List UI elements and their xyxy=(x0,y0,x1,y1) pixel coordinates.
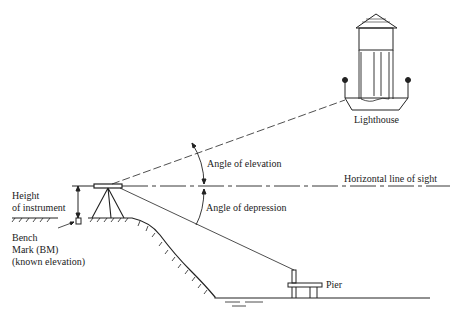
bench-label-line1: Bench xyxy=(12,232,38,243)
height-dimension xyxy=(72,186,94,218)
height-label-line2: of instrument xyxy=(12,202,66,213)
water-lines xyxy=(225,302,263,306)
horizontal-line-label: Horizontal line of sight xyxy=(344,173,437,184)
bench-label-line3: (known elevation) xyxy=(12,256,85,267)
pier-label: Pier xyxy=(326,279,342,290)
tripod xyxy=(92,188,124,218)
bench-mark xyxy=(76,218,81,224)
bench-label-line2: Mark (BM) xyxy=(12,244,58,255)
sight-line-depression xyxy=(120,188,294,270)
height-label-line1: Height xyxy=(12,190,39,201)
sight-line-elevation xyxy=(112,100,345,184)
angle-depression-label: Angle of depression xyxy=(206,202,287,213)
angle-elevation-label: Angle of elevation xyxy=(207,158,281,169)
instrument xyxy=(94,184,122,188)
pier xyxy=(288,270,322,298)
lighthouse xyxy=(343,14,411,110)
elevation-arc xyxy=(192,143,204,184)
lighthouse-label: Lighthouse xyxy=(354,114,399,125)
